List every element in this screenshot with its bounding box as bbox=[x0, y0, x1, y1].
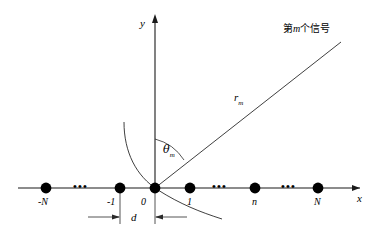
theta-subscript: m bbox=[170, 151, 175, 159]
source-prefix: 第 bbox=[283, 23, 293, 34]
ellipsis-left: ••• bbox=[73, 180, 88, 192]
figure-canvas bbox=[0, 0, 378, 244]
signal-ray bbox=[155, 42, 341, 188]
spacing-label-d: d bbox=[131, 212, 137, 223]
ellipsis-right: ••• bbox=[281, 180, 296, 192]
element-label-minus-1: -1 bbox=[107, 197, 115, 207]
dimension-arrow-left-head bbox=[112, 215, 120, 220]
element-label-minus-N: -N bbox=[38, 197, 48, 207]
dimension-arrow-right-head bbox=[155, 215, 163, 220]
array-element-marker bbox=[250, 183, 261, 194]
wavefront-arc bbox=[124, 122, 222, 219]
element-label-0: 0 bbox=[141, 197, 146, 207]
theta-glyph: θ bbox=[163, 143, 170, 156]
element-label-1: 1 bbox=[187, 197, 192, 207]
source-annotation-label: 第m个信号 bbox=[283, 24, 330, 34]
array-element-marker bbox=[41, 183, 52, 194]
angle-label-theta-m: θm bbox=[163, 140, 175, 159]
y-axis-label: y bbox=[140, 18, 145, 29]
signal-array-geometry-figure: y x -N -1 0 1 n N ••• ••• ••• d θm rm 第m… bbox=[0, 0, 378, 244]
array-element-marker bbox=[313, 183, 324, 194]
x-axis-arrowhead bbox=[352, 185, 360, 191]
array-element-marker bbox=[150, 183, 161, 194]
array-element-marker bbox=[185, 183, 196, 194]
y-axis-arrowhead bbox=[152, 14, 158, 23]
array-element-marker bbox=[115, 183, 126, 194]
element-label-N: N bbox=[314, 197, 321, 207]
source-suffix: 个信号 bbox=[300, 23, 330, 34]
r-subscript: m bbox=[238, 99, 243, 107]
x-axis-label: x bbox=[357, 193, 362, 204]
ellipsis-middle: ••• bbox=[212, 180, 227, 192]
element-label-n: n bbox=[252, 197, 257, 207]
range-label-r-m: rm bbox=[234, 88, 243, 107]
